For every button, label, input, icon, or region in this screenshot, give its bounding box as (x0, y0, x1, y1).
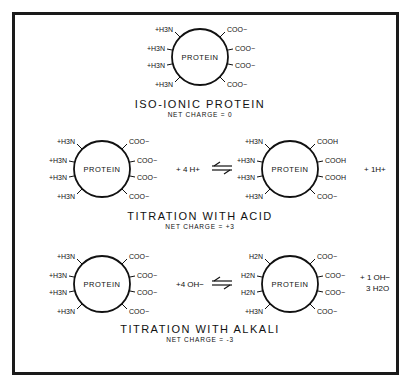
amino-group: +H3N (245, 138, 263, 145)
protein-label: PROTEIN (182, 53, 219, 62)
byproduct-label: + 1 OH− (360, 273, 391, 282)
reactant-protein: PROTEIN +H3N +H3N +H3N +H3N COO− COO− CO… (49, 138, 157, 200)
amino-group: +H3N (237, 174, 255, 181)
carboxyl-group: COO− (137, 174, 157, 181)
carboxyl-group: COO− (129, 138, 149, 145)
byproduct-label: + 1H+ (364, 165, 386, 174)
carboxyl-group: COOH (325, 157, 346, 164)
amino-group: +H3N (49, 272, 67, 279)
equilibrium-arrow-icon (212, 162, 232, 174)
protein-label: PROTEIN (272, 165, 309, 174)
protein-titration-diagram: PROTEIN +H3N +H3N +H3N +H3N COO− COO− CO… (0, 0, 407, 385)
protein-label: PROTEIN (272, 280, 309, 289)
amino-group: +H3N (147, 62, 165, 69)
reagent-label: +4 OH− (176, 280, 204, 289)
amino-group: +H3N (49, 174, 67, 181)
protein-label: PROTEIN (84, 280, 121, 289)
panel-title: ISO-IONIC PROTEIN (135, 98, 266, 110)
amino-group: +H3N (245, 193, 263, 200)
protein-molecule: PROTEIN +H3N +H3N +H3N +H3N COO− COO− CO… (147, 26, 255, 88)
panel-title: TITRATION WITH ACID (127, 210, 273, 222)
amino-group: H2N (241, 272, 255, 279)
carboxyl-group: COO− (325, 289, 345, 296)
carboxyl-group: COOH (317, 138, 338, 145)
net-charge: NET CHARGE = 0 (168, 111, 233, 118)
amino-group: +H3N (49, 157, 67, 164)
amino-group: +H3N (245, 308, 263, 315)
amino-group: +H3N (237, 157, 255, 164)
carboxyl-group: COOH (325, 174, 346, 181)
amino-group: +H3N (57, 193, 75, 200)
carboxyl-group: COO− (129, 253, 149, 260)
panel-iso-ionic: PROTEIN +H3N +H3N +H3N +H3N COO− COO− CO… (135, 26, 266, 118)
product-protein: PROTEIN +H3N +H3N +H3N +H3N COOH COOH CO… (237, 138, 346, 200)
byproduct-label: 3 H2O (366, 284, 389, 293)
amino-group: +H3N (155, 81, 173, 88)
amino-group: +H3N (49, 289, 67, 296)
carboxyl-group: COO− (317, 253, 337, 260)
carboxyl-group: COO− (137, 289, 157, 296)
panel-titration-acid: PROTEIN +H3N +H3N +H3N +H3N COO− COO− CO… (49, 138, 386, 230)
carboxyl-group: COO− (317, 193, 337, 200)
reagent-label: + 4 H+ (176, 165, 200, 174)
carboxyl-group: COO− (227, 81, 247, 88)
net-charge: NET CHARGE = +3 (165, 223, 234, 230)
carboxyl-group: COO− (325, 272, 345, 279)
carboxyl-group: COO− (137, 157, 157, 164)
amino-group: +H3N (57, 308, 75, 315)
amino-group: H2N (241, 289, 255, 296)
product-protein: PROTEIN H2N H2N H2N +H3N COO− COO− COO− … (241, 253, 345, 315)
carboxyl-group: COO− (317, 308, 337, 315)
amino-group: +H3N (57, 253, 75, 260)
carboxyl-group: COO− (235, 62, 255, 69)
equilibrium-arrow-icon (212, 277, 232, 289)
net-charge: NET CHARGE = -3 (166, 336, 234, 343)
panel-titration-alkali: PROTEIN +H3N +H3N +H3N +H3N COO− COO− CO… (49, 253, 391, 343)
amino-group: +H3N (155, 26, 173, 33)
carboxyl-group: COO− (227, 26, 247, 33)
amino-group: +H3N (147, 45, 165, 52)
protein-label: PROTEIN (84, 165, 121, 174)
amino-group: H2N (249, 253, 263, 260)
carboxyl-group: COO− (137, 272, 157, 279)
amino-group: +H3N (57, 138, 75, 145)
carboxyl-group: COO− (129, 193, 149, 200)
reactant-protein: PROTEIN +H3N +H3N +H3N +H3N COO− COO− CO… (49, 253, 157, 315)
carboxyl-group: COO− (129, 308, 149, 315)
panel-title: TITRATION WITH ALKALI (120, 323, 280, 335)
carboxyl-group: COO− (235, 45, 255, 52)
